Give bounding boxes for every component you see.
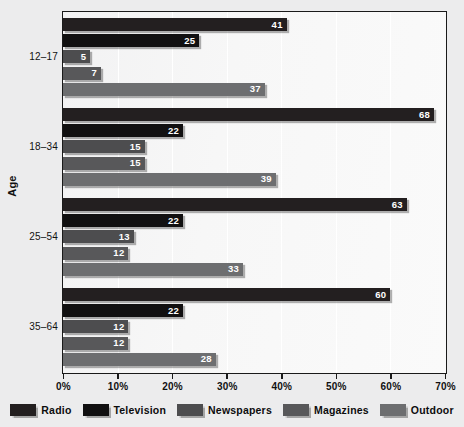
bar-row: 68 <box>63 108 446 121</box>
bar: 60 <box>63 288 390 301</box>
bar-row: 22 <box>63 304 446 317</box>
bar-row: 39 <box>63 173 446 186</box>
bar-row: 15 <box>63 157 446 170</box>
bar-row: 12 <box>63 337 446 350</box>
bar: 41 <box>63 18 287 31</box>
bar-value-label: 22 <box>168 306 179 316</box>
legend-item[interactable]: Newspapers <box>177 404 272 416</box>
x-axis-tick-label: 20% <box>162 381 183 392</box>
bar: 15 <box>63 157 145 170</box>
x-axis-tick-mark <box>172 374 174 379</box>
bar-row: 28 <box>63 353 446 366</box>
bar-row: 60 <box>63 288 446 301</box>
legend-item[interactable]: Television <box>83 404 167 416</box>
legend-label: Television <box>114 404 167 416</box>
bar-value-label: 33 <box>228 265 239 275</box>
x-axis-tick-mark <box>281 374 283 379</box>
bar: 12 <box>63 320 128 333</box>
x-axis-tick-mark <box>226 374 228 379</box>
bar: 12 <box>63 247 128 260</box>
chart-legend: RadioTelevisionNewspapersMagazinesOutdoo… <box>0 404 464 416</box>
bar-value-label: 37 <box>250 85 261 95</box>
x-axis-tick-mark <box>63 374 65 379</box>
x-axis-tick-mark <box>117 374 119 379</box>
bar-row: 12 <box>63 320 446 333</box>
bar-chart: Age 412557376822151539632213123360221212… <box>0 0 464 427</box>
x-axis-tick-label: 50% <box>326 381 347 392</box>
x-axis-tick-mark <box>336 374 338 379</box>
bar-row: 7 <box>63 67 446 80</box>
legend-label: Magazines <box>314 404 369 416</box>
bar-value-label: 60 <box>375 290 386 300</box>
bar: 22 <box>63 214 183 227</box>
x-axis-tick-label: 10% <box>108 381 129 392</box>
bar-value-label: 25 <box>184 36 195 46</box>
bar-row: 15 <box>63 140 446 153</box>
bar-value-label: 22 <box>168 126 179 136</box>
bar: 22 <box>63 124 183 137</box>
bar-value-label: 5 <box>81 52 87 62</box>
x-axis-tick-label: 40% <box>271 381 292 392</box>
bar-value-label: 68 <box>419 110 430 120</box>
bar: 12 <box>63 337 128 350</box>
bar-value-label: 28 <box>201 355 212 365</box>
legend-label: Outdoor <box>411 404 454 416</box>
bar: 15 <box>63 140 145 153</box>
bar-value-label: 15 <box>130 158 141 168</box>
bar-value-label: 39 <box>261 175 272 185</box>
bar-value-label: 41 <box>272 20 283 30</box>
legend-item[interactable]: Radio <box>10 404 71 416</box>
bar-row: 13 <box>63 230 446 243</box>
bar-row: 22 <box>63 214 446 227</box>
bar-value-label: 13 <box>119 232 130 242</box>
legend-swatch <box>283 404 309 416</box>
bar: 33 <box>63 263 243 276</box>
bar-group: 6822151539 <box>63 108 446 186</box>
bar: 37 <box>63 83 265 96</box>
category-label: 18–34 <box>0 141 58 152</box>
bar-group: 6022121228 <box>63 288 446 366</box>
bar-row: 25 <box>63 34 446 47</box>
category-label: 25–54 <box>0 231 58 242</box>
x-axis-tick-label: 70% <box>435 381 456 392</box>
bar-row: 41 <box>63 18 446 31</box>
legend-swatch <box>380 404 406 416</box>
legend-label: Radio <box>41 404 71 416</box>
bar: 39 <box>63 173 276 186</box>
bar: 22 <box>63 304 183 317</box>
legend-swatch <box>10 404 36 416</box>
category-label: 12–17 <box>0 51 58 62</box>
legend-item[interactable]: Outdoor <box>380 404 454 416</box>
x-axis-tick-label: 60% <box>381 381 402 392</box>
bar-group: 41255737 <box>63 18 446 96</box>
bar: 63 <box>63 198 407 211</box>
x-axis-tick-label: 30% <box>217 381 238 392</box>
bar-row: 22 <box>63 124 446 137</box>
plot-area: 41255737682215153963221312336022121228 <box>62 11 447 374</box>
bar-value-label: 15 <box>130 142 141 152</box>
bar-row: 12 <box>63 247 446 260</box>
bar-group: 6322131233 <box>63 198 446 276</box>
bar-value-label: 12 <box>113 322 124 332</box>
bar-row: 33 <box>63 263 446 276</box>
legend-swatch <box>177 404 203 416</box>
bar-value-label: 7 <box>92 68 98 78</box>
bar-row: 37 <box>63 83 446 96</box>
bar-value-label: 63 <box>392 200 403 210</box>
bar-value-label: 12 <box>113 338 124 348</box>
bar: 7 <box>63 67 101 80</box>
category-label: 35–64 <box>0 321 58 332</box>
bar-row: 5 <box>63 50 446 63</box>
x-axis-tick-label: 0% <box>56 381 71 392</box>
y-axis-title: Age <box>6 156 18 216</box>
bar: 68 <box>63 108 434 121</box>
bar: 28 <box>63 353 216 366</box>
legend-label: Newspapers <box>208 404 272 416</box>
legend-item[interactable]: Magazines <box>283 404 369 416</box>
x-axis-tick-mark <box>445 374 447 379</box>
x-axis-tick-mark <box>390 374 392 379</box>
bar-row: 63 <box>63 198 446 211</box>
bar-value-label: 12 <box>113 248 124 258</box>
bar-value-label: 22 <box>168 216 179 226</box>
legend-swatch <box>83 404 109 416</box>
